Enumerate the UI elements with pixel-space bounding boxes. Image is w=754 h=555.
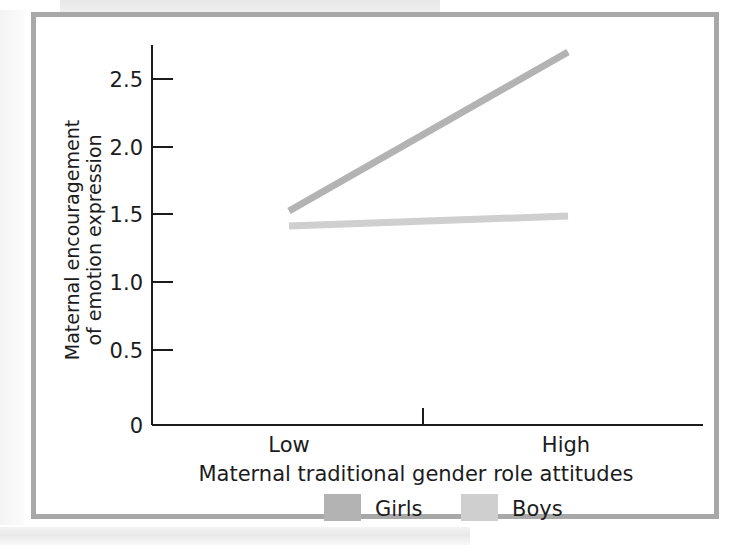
legend-swatch-boys: [461, 494, 498, 521]
y-tick-label-2-5: 2.5: [110, 68, 143, 92]
y-tick-label-1-0: 1.0: [110, 271, 143, 295]
y-axis-title-line-1: Maternal encouragement: [61, 120, 83, 360]
x-tick-label-low: Low: [268, 433, 309, 457]
x-axis-title: Maternal traditional gender role attitud…: [198, 462, 633, 486]
chart-plot-area: 2.5 2.0 1.5 1.0 0.5 0 Maternal encourage…: [0, 0, 754, 555]
y-axis-title-line-2: of emotion expression: [83, 134, 105, 345]
y-axis-title: Maternal encouragement of emotion expres…: [61, 120, 105, 360]
y-tick-label-0: 0: [130, 414, 143, 438]
y-tick-label-0-5: 0.5: [110, 339, 143, 363]
y-tick-label-1-5: 1.5: [110, 203, 143, 227]
chart-legend: Girls Boys: [324, 494, 563, 521]
y-axis-ticks: [152, 79, 173, 350]
y-tick-label-2-0: 2.0: [110, 136, 143, 160]
legend-label-boys: Boys: [512, 497, 563, 521]
x-tick-label-high: High: [542, 433, 590, 457]
legend-swatch-girls: [324, 494, 361, 521]
legend-label-girls: Girls: [375, 497, 423, 521]
series-line-girls: [289, 52, 568, 211]
series-line-boys: [289, 216, 568, 226]
line-chart: 2.5 2.0 1.5 1.0 0.5 0 Maternal encourage…: [0, 0, 754, 555]
